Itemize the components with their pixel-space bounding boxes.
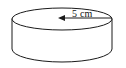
cylinder-figure: 5 cm [0,0,126,68]
radius-measurement-label: 5 cm [72,8,93,19]
cylinder-diagram-canvas: 5 cm [0,0,126,68]
